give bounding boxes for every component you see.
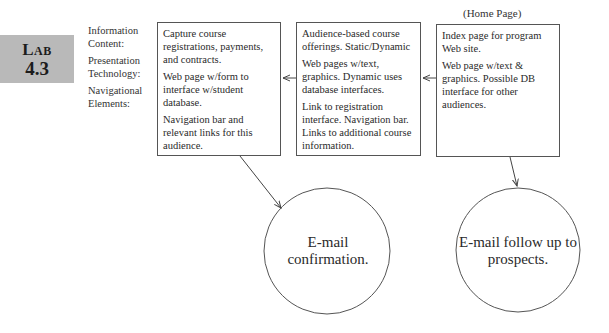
email-follow-up-label: E-mail follow up to prospects. [456,234,580,268]
arrow-home-to-follow-up [510,157,517,186]
email-confirmation-label: E-mail confirmation. [266,234,390,268]
arrow-registration-to-confirmation [240,156,281,208]
connectors [0,0,609,333]
